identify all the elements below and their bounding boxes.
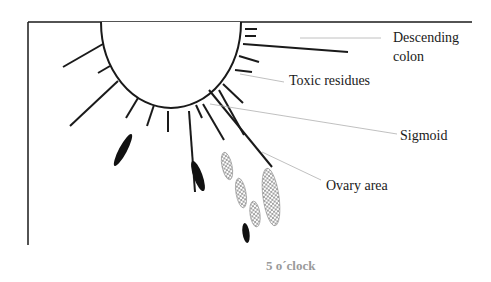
colon-diagram: Descending colon Toxic residues Sigmoid … <box>0 0 491 282</box>
ovary-area-shapes <box>219 151 283 227</box>
leader-lines <box>210 38 397 180</box>
label-descending-colon-line1: Descending <box>393 30 459 45</box>
label-toxic-residues: Toxic residues <box>289 73 370 88</box>
label-ovary-area: Ovary area <box>326 178 389 193</box>
ovary-shape <box>259 167 283 227</box>
ovary-shape <box>219 151 235 180</box>
toxic-residue-blobs <box>111 132 251 243</box>
ovary-shape <box>233 177 248 208</box>
caption-clock-position: 5 o´clock <box>266 258 316 273</box>
residue-blob <box>188 159 207 192</box>
label-descending-colon-line2: colon <box>393 49 424 64</box>
residue-blob <box>241 223 251 244</box>
residue-blob <box>111 132 135 168</box>
colon-semicircle <box>101 22 241 108</box>
ovary-shape <box>248 200 262 227</box>
label-sigmoid: Sigmoid <box>400 128 447 143</box>
